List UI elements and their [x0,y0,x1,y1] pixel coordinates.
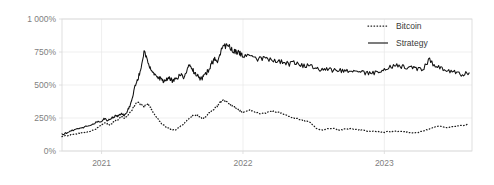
y-tick-label: 0% [44,146,57,156]
x-tick-label: 2021 [92,158,111,168]
x-tick-label: 2023 [375,158,394,168]
y-tick-label: 250% [34,113,56,123]
x-axis-tick-labels: 202120222023 [92,151,394,168]
chart-canvas: 0%250%500%750%1 000% 202120222023 Bitcoi… [0,0,494,185]
y-tick-label: 750% [34,47,56,57]
x-tick-label: 2022 [234,158,253,168]
legend-label-bitcoin: Bitcoin [396,21,422,31]
performance-chart: 0%250%500%750%1 000% 202120222023 Bitcoi… [0,0,494,185]
legend-label-strategy: Strategy [396,38,428,48]
y-axis-tick-labels: 0%250%500%750%1 000% [27,14,62,156]
y-tick-label: 500% [34,80,56,90]
y-tick-label: 1 000% [27,14,56,24]
